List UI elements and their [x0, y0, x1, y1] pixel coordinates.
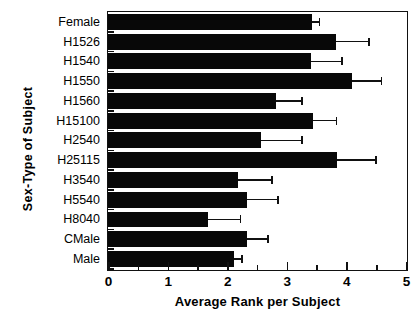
x-axis-minor-tick [257, 265, 259, 270]
error-bar [247, 238, 267, 240]
y-axis-tick [108, 110, 114, 112]
error-bar-cap [375, 156, 377, 164]
x-axis-tick [346, 262, 348, 270]
y-axis-tick-label: H1540 [63, 55, 100, 68]
x-axis-title: Average Rank per Subject [107, 294, 408, 309]
bar [108, 113, 313, 129]
y-axis-tick [108, 90, 114, 92]
error-bar-cap [267, 235, 269, 243]
bar [108, 152, 337, 168]
error-bar-cap [241, 255, 243, 263]
bar-row [108, 53, 407, 69]
error-bar [312, 21, 319, 23]
error-bar [336, 41, 369, 43]
bar-row [108, 192, 407, 208]
y-axis-tick-label: H3540 [63, 174, 100, 187]
y-axis-tick [108, 169, 114, 171]
x-axis-minor-tick [197, 265, 199, 270]
x-axis-tick [406, 262, 408, 270]
error-bar [208, 219, 240, 221]
bar-row [108, 113, 407, 129]
y-axis-tick [108, 189, 114, 191]
y-axis-tick-label: H2540 [63, 134, 100, 147]
x-axis-tick-label: 4 [334, 274, 360, 289]
plot-area [107, 11, 408, 271]
y-axis-tick-label: CMale [64, 233, 100, 246]
y-axis-tick-label: H1550 [63, 75, 100, 88]
error-bar-cap [341, 57, 343, 65]
bar [108, 53, 311, 69]
x-axis-tick-label: 1 [155, 274, 181, 289]
y-axis-tick [108, 71, 114, 73]
bar [108, 192, 247, 208]
y-axis-tick-label: H8040 [63, 213, 100, 226]
bar-chart: Sex-Type of Subject FemaleH1526H1540H155… [0, 0, 417, 317]
x-axis-tick-label: 5 [393, 274, 417, 289]
error-bar-cap [301, 97, 303, 105]
error-bar [247, 199, 277, 201]
x-axis-minor-tick [138, 265, 140, 270]
y-axis-tick [108, 150, 114, 152]
error-bar-cap [271, 176, 273, 184]
bar [108, 14, 312, 30]
y-axis-tick-label: Male [73, 253, 100, 266]
x-axis-tick-label: 3 [274, 274, 300, 289]
error-bar-cap [240, 215, 242, 223]
x-axis-tick [287, 262, 289, 270]
bar [108, 231, 247, 247]
y-axis-tick [108, 130, 114, 132]
error-bar [261, 140, 301, 142]
x-axis-minor-tick [316, 265, 318, 270]
bar-row [108, 132, 407, 148]
error-bar-cap [319, 18, 321, 26]
error-bar [352, 80, 381, 82]
bar [108, 212, 208, 228]
x-axis-tick [108, 262, 110, 270]
error-bar [238, 179, 271, 181]
bar-row [108, 14, 407, 30]
y-axis-tick-label: H1560 [63, 95, 100, 108]
x-axis-minor-tick [376, 265, 378, 270]
bar-row [108, 73, 407, 89]
bar-row [108, 172, 407, 188]
bar-row [108, 212, 407, 228]
y-axis-tick-labels: FemaleH1526H1540H1550H1560H15100H2540H25… [22, 12, 104, 271]
y-axis-tick-label: Female [58, 16, 100, 29]
x-axis-tick-label: 0 [96, 274, 122, 289]
y-axis-tick-label: H5540 [63, 194, 100, 207]
bar [108, 172, 238, 188]
x-axis-tick [168, 262, 170, 270]
error-bar [276, 100, 301, 102]
bar [108, 34, 336, 50]
bar-row [108, 231, 407, 247]
error-bar-cap [301, 136, 303, 144]
y-axis-tick [108, 51, 114, 53]
bar [108, 132, 261, 148]
error-bar-cap [381, 77, 383, 85]
y-axis-tick [108, 209, 114, 211]
error-bar-cap [336, 117, 338, 125]
x-axis-tick-label: 2 [215, 274, 241, 289]
y-axis-tick-label: H15100 [56, 115, 100, 128]
bar-row [108, 152, 407, 168]
error-bar [234, 258, 241, 260]
error-bar [311, 61, 342, 63]
x-axis-tick-labels: 012345 [0, 274, 417, 292]
y-axis-tick-label: H25115 [57, 154, 100, 167]
plot-inner [108, 12, 407, 270]
error-bar-cap [277, 196, 279, 204]
error-bar [313, 120, 336, 122]
bar [108, 73, 352, 89]
x-axis-tick [227, 262, 229, 270]
bar [108, 251, 234, 267]
bar-row [108, 93, 407, 109]
bar-row [108, 34, 407, 50]
bar [108, 93, 276, 109]
y-axis-tick [108, 31, 114, 33]
error-bar-cap [368, 38, 370, 46]
error-bar [337, 159, 375, 161]
y-axis-tick [108, 229, 114, 231]
y-axis-tick [108, 248, 114, 250]
y-axis-tick-label: H1526 [63, 36, 100, 49]
